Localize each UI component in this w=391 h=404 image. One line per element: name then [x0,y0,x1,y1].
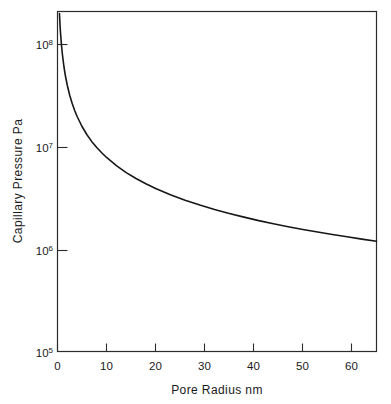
x-tick-label-60: 60 [345,360,358,372]
y-axis-label: Capillary Pressure Pa [11,119,25,243]
chart-figure: 0 10 20 30 40 50 60 108 107 106 105 Pore… [0,0,391,404]
x-tick-label-0: 0 [54,360,60,372]
y-tick-label-1e7-exponent: 7 [49,140,54,149]
x-tick-label-40: 40 [247,360,260,372]
x-axis-label: Pore Radius nm [171,383,263,397]
x-tick-label-50: 50 [296,360,309,372]
y-tick-label-1e5-exponent: 5 [49,345,54,354]
y-tick-label-1e8-mantissa: 10 [36,39,49,51]
x-tick-label-30: 30 [198,360,211,372]
x-tick-label-20: 20 [149,360,162,372]
y-tick-label-1e8-exponent: 8 [49,37,54,46]
y-tick-label-1e7-mantissa: 10 [36,142,49,154]
y-tick-label-1e6-exponent: 6 [49,243,54,252]
y-tick-label-1e6-mantissa: 10 [36,245,49,257]
plot-background [0,0,391,404]
y-tick-label-1e5-mantissa: 10 [36,347,49,359]
x-tick-label-10: 10 [100,360,113,372]
capillary-pressure-plot: 0 10 20 30 40 50 60 108 107 106 105 Pore… [0,0,391,404]
